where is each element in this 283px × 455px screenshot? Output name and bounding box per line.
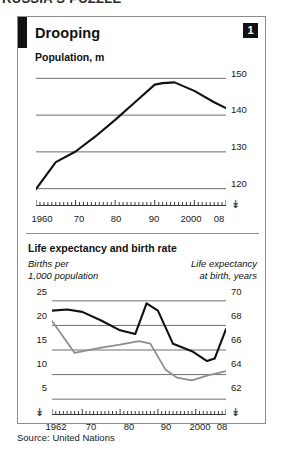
chart-number-badge: 1 xyxy=(243,23,258,38)
chart2-right-ytick-64: 64 xyxy=(231,358,242,369)
chart2-xtick-08: 08 xyxy=(211,421,233,432)
chart1-ytick-150: 150 xyxy=(231,68,247,79)
life-expectancy-birthrate-plot xyxy=(52,291,226,409)
title-accent-bar xyxy=(18,17,27,48)
chart1-tick-ruler xyxy=(36,200,226,211)
chart2-right-ytick-70: 70 xyxy=(231,286,242,297)
page-headline-cropped: RUSSIA'S PUZZLE xyxy=(0,0,283,11)
page-title: Drooping xyxy=(35,25,100,41)
chart2-axis-break-icon-left: ↡ xyxy=(35,406,44,419)
chart2-left-ytick-15: 15 xyxy=(22,334,47,345)
chart2-xtick-90: 90 xyxy=(154,421,178,432)
chart1-subtitle: Population, m xyxy=(35,51,104,63)
chart2-left-ytick-10: 10 xyxy=(22,358,47,369)
chart1-xtick-08: 08 xyxy=(208,213,230,224)
chart2-xtick-70: 70 xyxy=(79,421,103,432)
chart1-xtick-80: 80 xyxy=(104,213,128,224)
chart2-left-ytick-20: 20 xyxy=(22,310,47,321)
chart2-left-ytick-5: 5 xyxy=(22,382,47,393)
chart1-xtick-70: 70 xyxy=(67,213,91,224)
chart2-left-axis-caption: Births per 1,000 population xyxy=(28,258,98,281)
chart2-left-ytick-25: 25 xyxy=(22,286,47,297)
chart2-right-ytick-66: 66 xyxy=(231,334,242,345)
section-divider xyxy=(26,233,259,234)
population-chart-plot xyxy=(36,71,226,196)
page-headline-text: RUSSIA'S PUZZLE xyxy=(2,0,122,6)
chart1-ytick-130: 130 xyxy=(231,141,247,152)
population-chart-svg xyxy=(36,71,226,196)
source-note: Source: United Nations xyxy=(17,432,115,443)
chart2-subtitle: Life expectancy and birth rate xyxy=(28,242,177,254)
chart2-right-axis-caption: Life expectancy at birth, years xyxy=(191,258,257,281)
chart2-right-ytick-68: 68 xyxy=(231,310,242,321)
chart2-axis-break-icon-right: ↡ xyxy=(231,406,240,419)
life-expectancy-birthrate-svg xyxy=(52,291,226,409)
chart1-xtick-1960: 1960 xyxy=(22,213,62,224)
chart1-ytick-120: 120 xyxy=(231,178,247,189)
chart2-right-ytick-62: 62 xyxy=(231,382,242,393)
chart1-xaxis-ruler xyxy=(36,200,226,211)
chart1-ytick-140: 140 xyxy=(231,104,247,115)
chart1-xtick-90: 90 xyxy=(142,213,166,224)
chart-panel: Drooping 1 Population, m 150 140 130 120… xyxy=(17,16,266,424)
chart2-xtick-80: 80 xyxy=(117,421,141,432)
chart1-axis-break-icon: ↡ xyxy=(231,198,240,211)
chart2-xaxis-ruler xyxy=(52,409,226,420)
chart2-xtick-1962: 1962 xyxy=(36,421,76,432)
chart2-tick-ruler xyxy=(52,409,226,420)
chart1-xtick-2000: 2000 xyxy=(171,213,211,224)
